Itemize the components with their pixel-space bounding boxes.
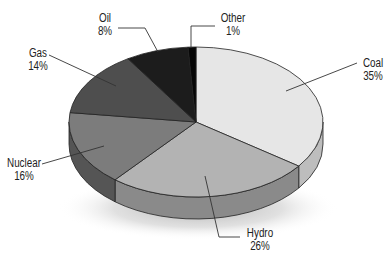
label-nuclear-value: 16%	[5, 170, 43, 183]
label-hydro-value: 26%	[244, 240, 277, 253]
label-other-value: 1%	[217, 25, 250, 38]
pie-slices	[69, 47, 323, 197]
label-coal: Coal 35%	[358, 57, 388, 83]
label-coal-value: 35%	[358, 70, 388, 83]
leader-line-oil	[118, 28, 158, 52]
label-gas-value: 14%	[23, 60, 53, 73]
label-nuclear: Nuclear 16%	[5, 157, 43, 183]
label-oil: Oil 8%	[93, 12, 118, 38]
label-oil-value: 8%	[93, 25, 118, 38]
label-gas: Gas 14%	[23, 47, 53, 73]
pie-chart-graphic	[0, 0, 391, 257]
label-other: Other 1%	[217, 12, 250, 38]
pie-chart: Oil 8% Other 1% Gas 14% Coal 35% Nuclear…	[0, 0, 391, 257]
label-hydro: Hydro 26%	[244, 227, 277, 253]
leader-line-other	[191, 26, 215, 48]
